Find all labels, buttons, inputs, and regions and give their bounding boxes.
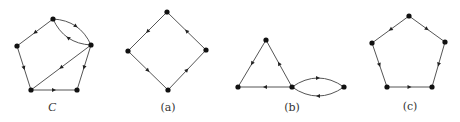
arrowhead-icon [263, 85, 267, 89]
node-bottom-left [384, 84, 389, 89]
node-far-right [341, 84, 346, 89]
graph-a-edges [128, 12, 206, 90]
node-left [14, 43, 19, 48]
node-bottom-left [235, 84, 240, 89]
node-bottom-right [289, 84, 294, 89]
node-bottom-left [28, 87, 33, 92]
arrowhead-icon [408, 85, 412, 89]
graph-c-cycle: C [14, 16, 93, 114]
graph-c-nodes [14, 16, 93, 92]
graph-c-label: C [48, 100, 57, 114]
graph-a-nodes [125, 9, 208, 92]
graph-a-square-cycle: (a) [125, 9, 208, 114]
graph-c-pentagon-edges [372, 16, 445, 89]
node-right [442, 39, 447, 44]
graph-c-pentagon-label: (c) [403, 100, 418, 113]
arrowhead-icon [52, 88, 56, 92]
graph-b-triangle-loop: (b) [235, 37, 346, 114]
node-top [164, 9, 169, 14]
node-right [203, 47, 208, 52]
node-bottom [165, 87, 170, 92]
graph-c-pentagon: (c) [369, 13, 447, 113]
node-left [369, 40, 374, 45]
node-bottom-right [74, 87, 79, 92]
graph-c-edges [17, 19, 91, 92]
node-bottom-right [429, 84, 434, 89]
directed-graph-figure: C (a) (b) (c) [0, 0, 460, 122]
arrowhead-icon [389, 27, 393, 31]
graph-c-pentagon-nodes [369, 13, 447, 89]
graph-b-label: (b) [284, 101, 300, 114]
edge-far_right-to-bottom_right [292, 87, 344, 96]
node-top [263, 37, 268, 42]
arrowhead-icon [377, 62, 381, 66]
edge-bottom_right-to-far_right [292, 78, 344, 87]
edge-top-to-right [53, 19, 91, 45]
edge-right-to-top [53, 19, 91, 45]
node-top [406, 13, 411, 18]
node-right [88, 42, 93, 47]
graph-a-label: (a) [160, 101, 175, 114]
arrowhead-icon [424, 26, 428, 30]
node-left [125, 48, 130, 53]
arrowhead-icon [316, 76, 320, 80]
node-top [50, 16, 55, 21]
arrowhead-icon [316, 94, 320, 98]
